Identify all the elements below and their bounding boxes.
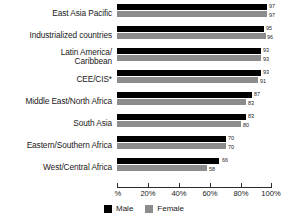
legend-item-male: Male: [104, 204, 133, 213]
axis-tick-label: %: [115, 190, 122, 198]
grouped-bar-chart: East Asia Pacific 97 97 Industrialized c…: [0, 0, 288, 216]
legend-swatch-female-icon: [145, 205, 153, 213]
bar-group: [117, 48, 261, 61]
bar-male: [117, 26, 264, 32]
value-label-male: 95: [266, 26, 272, 31]
category-label: CEE/CIS*: [0, 75, 112, 84]
value-label-female: 93: [263, 57, 269, 62]
category-label-line2: Caribbean: [75, 56, 112, 66]
axis-tick-label: 40%: [171, 190, 186, 198]
value-label-female: 91: [260, 79, 266, 84]
bar-female: [117, 55, 261, 61]
bar-male: [117, 48, 261, 54]
bar-female: [117, 143, 226, 149]
value-label-female: 83: [248, 101, 254, 106]
value-label-female: 80: [243, 123, 249, 128]
bar-group: [117, 158, 219, 171]
category-label: Latin America/ Caribbean: [0, 48, 112, 66]
x-axis: [117, 183, 272, 188]
axis-tick: [117, 183, 118, 188]
axis-tick: [241, 183, 242, 188]
axis-tick: [179, 183, 180, 188]
bar-group: [117, 70, 261, 83]
value-label-male: 83: [248, 114, 254, 119]
axis-tick: [271, 183, 272, 188]
bar-female: [117, 121, 241, 127]
category-label: Industrialized countries: [0, 31, 112, 40]
bar-male: [117, 158, 219, 164]
value-label-male: 87: [254, 92, 260, 97]
bar-group: [117, 92, 252, 105]
bar-male: [117, 4, 267, 10]
bar-female: [117, 33, 266, 39]
category-label: Middle East/North Africa: [0, 97, 112, 106]
axis-tick-label: 20%: [140, 190, 155, 198]
bar-group: [117, 136, 226, 149]
axis-tick-label: 60%: [202, 190, 217, 198]
value-label-female: 58: [209, 167, 215, 172]
axis-tick-label: 100%: [261, 190, 280, 198]
value-label-female: 96: [267, 35, 273, 40]
axis-baseline: [117, 187, 272, 188]
category-label: Eastern/Southern Africa: [0, 141, 112, 150]
legend-swatch-male-icon: [104, 205, 112, 213]
value-label-female: 97: [269, 13, 275, 18]
axis-tick: [148, 183, 149, 188]
bar-male: [117, 136, 226, 142]
value-label-male: 97: [269, 4, 275, 9]
x-axis-tick-labels: % 20% 40% 60% 80% 100%: [0, 190, 288, 200]
bar-female: [117, 11, 267, 17]
value-label-male: 70: [228, 136, 234, 141]
value-label-male: 93: [263, 48, 269, 53]
category-label: West/Central Africa: [0, 163, 112, 172]
bar-male: [117, 70, 261, 76]
category-label: East Asia Pacific: [0, 9, 112, 18]
bar-male: [117, 114, 246, 120]
legend-item-female: Female: [145, 204, 184, 213]
axis-tick: [210, 183, 211, 188]
bar-female: [117, 99, 246, 105]
bar-female: [117, 77, 258, 83]
bar-group: [117, 26, 266, 39]
axis-tick-label: 80%: [233, 190, 248, 198]
category-label: South Asia: [0, 119, 112, 128]
legend: Male Female: [0, 203, 288, 214]
bar-group: [117, 114, 246, 127]
value-label-male: 66: [222, 158, 228, 163]
legend-label-female: Female: [157, 204, 184, 213]
bar-female: [117, 165, 207, 171]
value-label-male: 93: [263, 70, 269, 75]
bar-group: [117, 4, 267, 17]
legend-label-male: Male: [116, 204, 133, 213]
value-label-female: 70: [228, 145, 234, 150]
bar-male: [117, 92, 252, 98]
